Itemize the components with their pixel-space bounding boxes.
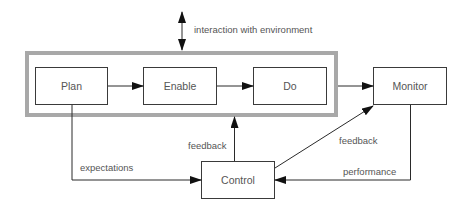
performance-label: performance bbox=[343, 166, 396, 177]
do-label: Do bbox=[283, 80, 297, 92]
expectations-label: expectations bbox=[80, 162, 134, 173]
node-do: Do bbox=[254, 68, 327, 105]
monitor-label: Monitor bbox=[392, 80, 428, 92]
process-diagram: interaction with environment Plan Enable… bbox=[0, 0, 468, 211]
node-plan: Plan bbox=[36, 68, 108, 105]
feedback-group-label: feedback bbox=[188, 140, 227, 151]
interaction-label: interaction with environment bbox=[194, 24, 313, 35]
node-enable: Enable bbox=[144, 68, 217, 105]
node-control: Control bbox=[202, 162, 275, 199]
node-monitor: Monitor bbox=[374, 68, 447, 105]
control-label: Control bbox=[221, 174, 255, 186]
plan-label: Plan bbox=[61, 80, 82, 92]
environment-interaction: interaction with environment bbox=[182, 12, 313, 50]
feedback-monitor-label: feedback bbox=[339, 135, 378, 146]
enable-label: Enable bbox=[164, 80, 197, 92]
